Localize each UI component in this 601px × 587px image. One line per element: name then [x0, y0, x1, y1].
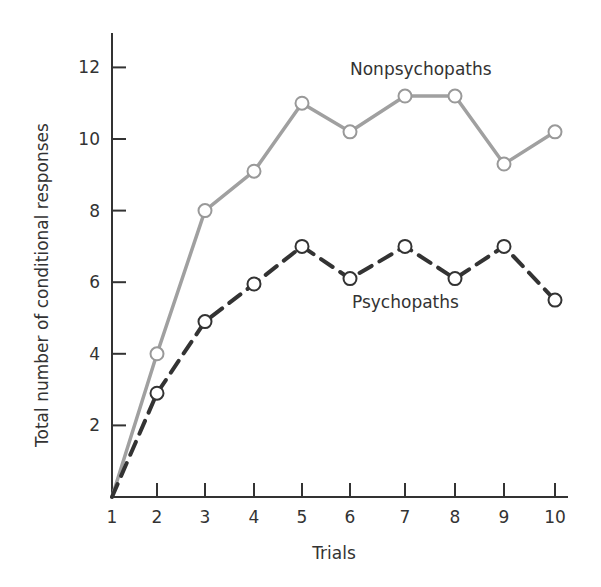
y-tick-label: 8	[89, 201, 100, 221]
psychopaths-series	[112, 240, 562, 497]
data-point-marker	[151, 387, 164, 400]
psychopaths-line	[112, 246, 555, 497]
y-axis-ticks: 24681012	[78, 57, 126, 435]
line-chart: 24681012 12345678910 Trials Total number…	[0, 0, 601, 587]
y-tick-label: 4	[89, 344, 100, 364]
x-tick-label: 10	[544, 507, 566, 527]
y-axis: 24681012	[78, 33, 126, 497]
data-point-marker	[449, 90, 462, 103]
data-point-marker	[296, 97, 309, 110]
nonpsychopaths-series	[112, 90, 562, 497]
x-tick-label: 3	[200, 507, 211, 527]
data-point-marker	[549, 125, 562, 138]
data-point-marker	[399, 90, 412, 103]
y-axis-title: Total number of conditional responses	[32, 123, 52, 448]
x-axis: 12345678910	[107, 483, 568, 527]
data-point-marker	[199, 315, 212, 328]
x-tick-label: 6	[345, 507, 356, 527]
data-point-marker	[248, 277, 261, 290]
data-point-marker	[248, 165, 261, 178]
data-point-marker	[199, 204, 212, 217]
x-tick-label: 8	[450, 507, 461, 527]
nonpsychopaths-line	[112, 96, 555, 497]
y-tick-label: 2	[89, 415, 100, 435]
nonpsychopaths-label: Nonpsychopaths	[350, 59, 492, 79]
x-tick-label: 2	[152, 507, 163, 527]
data-point-marker	[498, 240, 511, 253]
series-layer	[112, 90, 562, 497]
x-tick-label: 7	[400, 507, 411, 527]
y-tick-label: 6	[89, 272, 100, 292]
data-point-marker	[449, 272, 462, 285]
data-point-marker	[151, 347, 164, 360]
x-axis-ticks: 12345678910	[107, 483, 566, 527]
x-tick-label: 5	[297, 507, 308, 527]
x-axis-title: Trials	[311, 543, 356, 563]
data-point-marker	[344, 272, 357, 285]
data-point-marker	[344, 125, 357, 138]
data-point-marker	[498, 158, 511, 171]
x-tick-label: 1	[107, 507, 118, 527]
x-tick-label: 4	[249, 507, 260, 527]
y-tick-label: 12	[78, 57, 100, 77]
x-tick-label: 9	[499, 507, 510, 527]
psychopaths-label: Psychopaths	[352, 292, 459, 312]
data-point-marker	[549, 294, 562, 307]
data-point-marker	[399, 240, 412, 253]
data-point-marker	[296, 240, 309, 253]
y-tick-label: 10	[78, 129, 100, 149]
